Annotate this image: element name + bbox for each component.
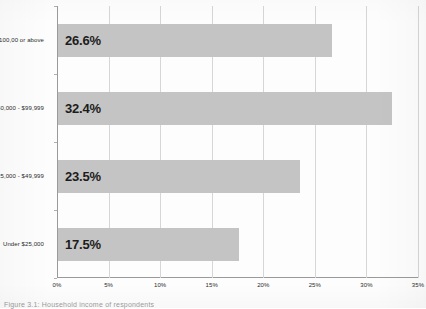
bar-value-label: 17.5% [65, 237, 101, 252]
figure-caption: Figure 3.1: Household income of responde… [4, 301, 154, 309]
y-axis-tick [54, 74, 57, 75]
bar-row: 23.5% [57, 160, 418, 193]
y-axis-tick [54, 210, 57, 211]
x-axis-line [57, 277, 418, 278]
y-axis-tick [54, 142, 57, 143]
y-axis-tick [54, 278, 57, 279]
x-tick-label: 35% [412, 282, 424, 288]
bar-row: 32.4% [57, 92, 418, 125]
x-tick-label: 30% [360, 282, 372, 288]
bar-value-label: 32.4% [65, 101, 101, 116]
gridline [418, 6, 419, 278]
bar-value-label: 23.5% [65, 169, 101, 184]
x-tick-label: 15% [206, 282, 218, 288]
x-tick-label: 10% [154, 282, 166, 288]
category-label: $100,00 or above [0, 37, 44, 43]
plot-area: 26.6%32.4%23.5%17.5% $100,00 or above$50… [57, 6, 418, 278]
x-tick-label: 5% [104, 282, 113, 288]
bar-row: 17.5% [57, 228, 418, 261]
y-axis-tick [54, 6, 57, 7]
bar [58, 92, 392, 125]
category-label: Under $25,000 [3, 241, 44, 247]
bar-value-label: 26.6% [65, 33, 101, 48]
x-tick-label: 20% [257, 282, 269, 288]
x-tick-label: 25% [309, 282, 321, 288]
category-label: $50,000 - $99,999 [0, 105, 44, 111]
x-tick-label: 0% [53, 282, 62, 288]
category-label: $25,000 - $49,999 [0, 173, 44, 179]
bar-row: 26.6% [57, 24, 418, 57]
